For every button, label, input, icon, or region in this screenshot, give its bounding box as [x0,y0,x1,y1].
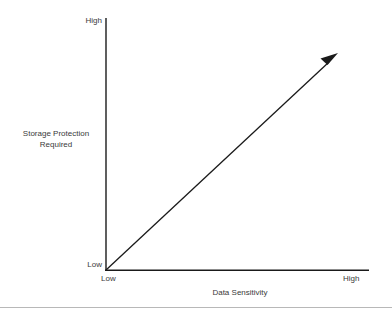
y-axis-title-line-1: Storage Protection [23,129,89,138]
x-axis-low-tick-label: Low [101,274,116,284]
y-axis-low-tick-label: Low [76,260,102,270]
y-axis-high-tick-label: High [76,16,102,26]
plot-area [0,0,392,316]
chart-figure: High Low Storage Protection Required Low… [0,0,392,316]
x-axis-high-tick-label: High [343,274,359,284]
trend-arrow-line [106,62,329,270]
chart-page: High Low Storage Protection Required Low… [0,0,392,316]
trend-arrowhead-icon [321,53,339,65]
page-bottom-divider [0,307,392,308]
x-axis-title: Data Sensitivity [150,288,330,298]
y-axis-title: Storage Protection Required [10,129,102,150]
y-axis-title-line-2: Required [40,140,72,149]
